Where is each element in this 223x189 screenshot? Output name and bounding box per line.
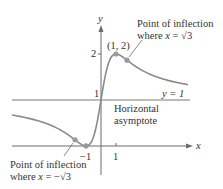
asymptote-text-line1: Horizontal bbox=[114, 103, 159, 115]
inflection-point-left bbox=[72, 137, 77, 142]
min-point bbox=[83, 143, 88, 148]
inflection-right-line1: Point of inflection bbox=[137, 18, 213, 30]
asymptote-label: y = 1 bbox=[162, 88, 184, 100]
tick-label-y-2: 2 bbox=[91, 48, 96, 60]
inflection-right-line2: where x = √3 bbox=[137, 30, 192, 42]
leader-right bbox=[129, 40, 142, 57]
inflection-left-line2: where x = −√3 bbox=[10, 171, 71, 183]
asymptote-text-line2: asymptote bbox=[114, 115, 157, 127]
max-point bbox=[113, 51, 118, 56]
y-axis-label: y bbox=[98, 13, 103, 25]
leader-left bbox=[64, 143, 73, 156]
tick-label-y-1: 1 bbox=[94, 88, 99, 100]
inflection-left-line1: Point of inflection bbox=[10, 159, 86, 171]
tick-label-x-1: 1 bbox=[113, 151, 118, 163]
x-axis-arrow-icon bbox=[186, 144, 193, 149]
max-point-label: (1, 2) bbox=[107, 40, 130, 52]
x-axis-label: x bbox=[196, 140, 201, 152]
inflection-point-right bbox=[124, 58, 129, 63]
y-axis-arrow-icon bbox=[99, 25, 104, 32]
